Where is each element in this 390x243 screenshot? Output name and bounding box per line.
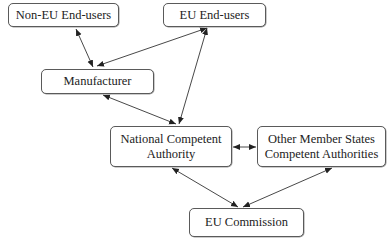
- node-label: Non-EU End-users: [16, 8, 111, 23]
- node-label-line1: Other Member States: [268, 132, 375, 147]
- edge-nonEU-manufacturer: [76, 29, 93, 67]
- node-non-eu-end-users: Non-EU End-users: [8, 3, 119, 27]
- node-label-line1: National Competent: [120, 132, 221, 147]
- node-label-line2: Competent Authorities: [265, 147, 379, 162]
- node-eu-commission: EU Commission: [189, 208, 304, 237]
- edge-manufacturer-nca: [103, 95, 176, 124]
- node-national-competent-authority: National Competent Authority: [110, 126, 232, 167]
- edge-nca-commission: [172, 168, 238, 207]
- connector-layer: [0, 0, 390, 243]
- edge-eu-manufacturer: [97, 28, 207, 66]
- edge-eu-nca: [179, 28, 207, 124]
- node-label: EU End-users: [180, 8, 250, 23]
- node-label: EU Commission: [205, 215, 288, 230]
- node-manufacturer: Manufacturer: [41, 69, 154, 94]
- node-eu-end-users: EU End-users: [163, 3, 266, 27]
- node-other-member-states: Other Member States Competent Authoritie…: [257, 126, 386, 167]
- diagram-canvas: Non-EU End-users EU End-users Manufactur…: [0, 0, 390, 243]
- node-label-line2: Authority: [147, 147, 196, 162]
- node-label: Manufacturer: [63, 74, 131, 89]
- edge-other-ms-commission: [243, 168, 332, 207]
